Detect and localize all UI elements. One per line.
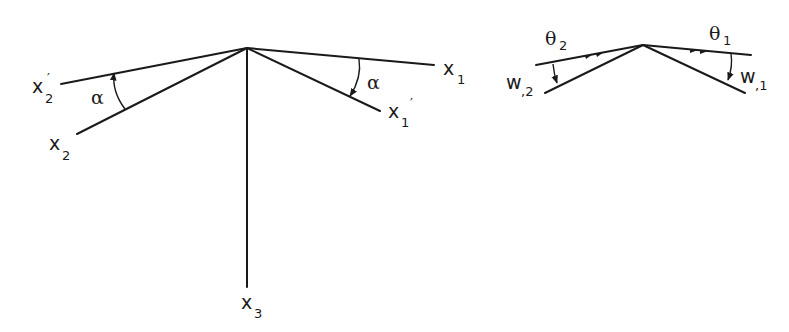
label-x3: x 3 bbox=[241, 291, 262, 321]
label-x1-prime: x 1 ′ bbox=[388, 95, 413, 130]
svg-text:2: 2 bbox=[559, 38, 567, 53]
svg-text:x: x bbox=[49, 132, 60, 154]
svg-text:θ: θ bbox=[709, 22, 720, 44]
w1-arc bbox=[728, 54, 732, 80]
svg-text:2: 2 bbox=[45, 91, 53, 106]
label-x2-prime: x 2 ′ bbox=[32, 70, 53, 106]
svg-text:w: w bbox=[740, 65, 756, 87]
svg-text:1: 1 bbox=[401, 115, 409, 130]
svg-text:1: 1 bbox=[723, 33, 731, 48]
svg-text:w: w bbox=[506, 71, 522, 93]
axis-x2-prime bbox=[61, 48, 247, 84]
label-x1: x 1 bbox=[443, 57, 465, 87]
svg-text:′: ′ bbox=[410, 95, 413, 110]
right-panel: θ 2 θ 1 w ,2 w ,1 bbox=[506, 22, 767, 99]
svg-text:x: x bbox=[241, 291, 252, 313]
svg-text:x: x bbox=[443, 57, 454, 79]
alpha-label-left: α bbox=[91, 86, 104, 108]
w2-arc bbox=[553, 64, 557, 83]
alpha-arc-right bbox=[350, 59, 360, 96]
svg-text:3: 3 bbox=[254, 306, 262, 321]
alpha-label-right: α bbox=[367, 71, 380, 93]
svg-text:,2: ,2 bbox=[521, 84, 533, 99]
label-theta2: θ 2 bbox=[545, 27, 567, 53]
svg-text:,1: ,1 bbox=[755, 78, 767, 93]
label-theta1: θ 1 bbox=[709, 22, 731, 48]
alpha-arc-left bbox=[114, 73, 125, 109]
label-w1: w ,1 bbox=[740, 65, 767, 93]
svg-text:2: 2 bbox=[62, 148, 70, 163]
svg-text:1: 1 bbox=[457, 72, 465, 87]
label-x2: x 2 bbox=[49, 132, 70, 163]
left-panel: x 2 ′ x 2 α α x 1 x 1 ′ x 3 bbox=[32, 48, 465, 321]
rotation-diagram: x 2 ′ x 2 α α x 1 x 1 ′ x 3 bbox=[0, 0, 789, 332]
axis-x1 bbox=[247, 48, 434, 65]
svg-text:x: x bbox=[32, 75, 43, 97]
svg-text:x: x bbox=[388, 100, 399, 122]
label-w2: w ,2 bbox=[506, 71, 533, 99]
svg-text:′: ′ bbox=[47, 70, 50, 85]
svg-text:θ: θ bbox=[545, 27, 556, 49]
